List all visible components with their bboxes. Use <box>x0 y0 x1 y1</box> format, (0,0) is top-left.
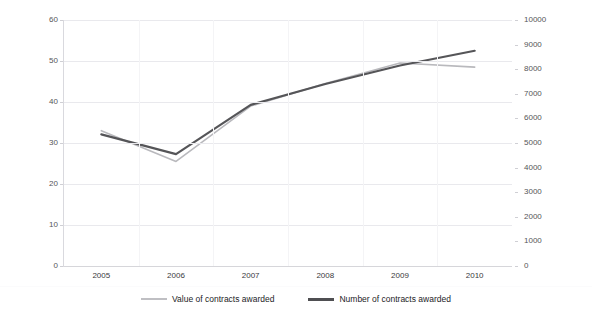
y-axis-right-tick-label: 5000 <box>524 139 564 147</box>
y-axis-left-tick-mark <box>60 266 63 267</box>
category-separator <box>363 20 364 266</box>
y-axis-right-tick-mark <box>515 20 518 21</box>
chart-container: Value of Awarded Procurement Contracts (… <box>0 0 592 309</box>
y-axis-right-tick-mark <box>515 217 518 218</box>
y-axis-right-tick-label: 1000 <box>524 237 564 245</box>
legend-label-number: Number of contracts awarded <box>339 294 451 304</box>
top-cropped-text-artifact <box>0 0 592 6</box>
y-axis-left-tick-mark <box>60 20 63 21</box>
y-axis-left-tick-label: 10 <box>38 221 58 229</box>
y-axis-right-tick-label: 9000 <box>524 41 564 49</box>
y-axis-right-tick-mark <box>515 168 518 169</box>
plot-area <box>64 20 512 266</box>
gridline <box>64 266 512 267</box>
y-axis-left-tick-mark <box>60 61 63 62</box>
y-axis-left-tick-label: 0 <box>38 262 58 270</box>
legend-divider <box>0 286 592 287</box>
x-axis-tick-label: 2005 <box>76 271 126 280</box>
legend-item-value[interactable]: Value of contracts awarded <box>141 294 274 304</box>
legend-item-number[interactable]: Number of contracts awarded <box>308 294 451 304</box>
legend-swatch-number <box>308 298 334 301</box>
y-axis-right-tick-mark <box>515 45 518 46</box>
y-axis-left-tick-mark <box>60 143 63 144</box>
category-separator <box>437 20 438 266</box>
y-axis-right-tick-mark <box>515 266 518 267</box>
y-axis-right-tick-label: 8000 <box>524 65 564 73</box>
y-axis-left-tick-mark <box>60 184 63 185</box>
y-axis-right-tick-mark <box>515 192 518 193</box>
category-separator <box>213 20 214 266</box>
y-axis-right-tick-label: 7000 <box>524 90 564 98</box>
legend-swatch-value <box>141 298 167 300</box>
y-axis-right-tick-mark <box>515 94 518 95</box>
y-axis-right-tick-mark <box>515 241 518 242</box>
y-axis-left-tick-label: 20 <box>38 180 58 188</box>
y-axis-right-tick-mark <box>515 143 518 144</box>
y-axis-right-tick-label: 6000 <box>524 114 564 122</box>
y-axis-right-tick-label: 2000 <box>524 213 564 221</box>
y-axis-right-tick-label: 10000 <box>524 16 564 24</box>
y-axis-left-tick-label: 30 <box>38 139 58 147</box>
x-axis-tick-label: 2009 <box>375 271 425 280</box>
y-axis-left-tick-label: 60 <box>38 16 58 24</box>
y-axis-left-tick-label: 50 <box>38 57 58 65</box>
y-axis-right-tick-label: 4000 <box>524 164 564 172</box>
y-axis-right-tick-mark <box>515 118 518 119</box>
category-separator <box>288 20 289 266</box>
x-axis-tick-label: 2010 <box>450 271 500 280</box>
y-axis-left-tick-label: 40 <box>38 98 58 106</box>
y-axis-left-tick-mark <box>60 102 63 103</box>
x-axis-tick-label: 2008 <box>300 271 350 280</box>
y-axis-right-tick-mark <box>515 69 518 70</box>
x-axis-tick-label: 2006 <box>151 271 201 280</box>
category-separator <box>139 20 140 266</box>
x-axis-tick-label: 2007 <box>226 271 276 280</box>
y-axis-left-tick-mark <box>60 225 63 226</box>
legend-label-value: Value of contracts awarded <box>172 294 274 304</box>
y-axis-right-tick-label: 3000 <box>524 188 564 196</box>
chart-legend: Value of contracts awarded Number of con… <box>0 289 592 309</box>
y-axis-right-tick-label: 0 <box>524 262 564 270</box>
